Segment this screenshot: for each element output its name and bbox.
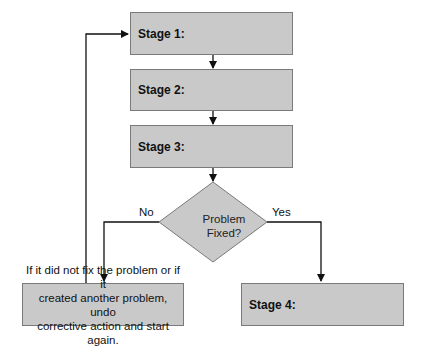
stage-4-label: Stage 4: (249, 298, 296, 312)
yes-branch-line (267, 222, 321, 281)
undo-note-line-1: If it did not fix the problem or if it (25, 263, 181, 291)
stage-1-box: Stage 1: (130, 12, 293, 55)
stage-3-label: Stage 3: (138, 140, 185, 154)
stage-2-box: Stage 2: (130, 69, 293, 111)
undo-note-line-3: corrective action and start again. (25, 319, 181, 347)
stage-2-label: Stage 2: (138, 83, 185, 97)
no-label: No (139, 206, 154, 218)
undo-note-line-2: created another problem, undo (25, 291, 181, 319)
decision-line-2: Fixed? (176, 226, 272, 240)
yes-label: Yes (272, 206, 291, 218)
stage-4-box: Stage 4: (241, 283, 404, 326)
decision-line-1: Problem (176, 212, 272, 226)
stage-3-box: Stage 3: (130, 125, 293, 168)
undo-note-box: If it did not fix the problem or if it c… (22, 283, 184, 326)
stage-1-label: Stage 1: (138, 27, 185, 41)
decision-text: Problem Fixed? (176, 212, 272, 240)
loop-back-line (86, 34, 128, 283)
